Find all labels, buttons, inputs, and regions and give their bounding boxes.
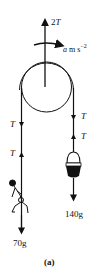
acceleration-label: a m s−2 [63,42,87,54]
tension-label-left-up: T [10,149,15,158]
tension-down-arrow-left [19,122,24,127]
support-force-label: 2T [51,18,61,27]
tension-up-arrow-right [71,134,76,139]
right-rope [71,88,76,198]
pulley-diagram [0,0,104,271]
weight-label-right: 140g [65,210,83,219]
tension-label-right-up: T [81,132,86,141]
tension-down-arrow-right [71,115,76,120]
acceleration-arrow [34,43,60,45]
figure-caption: (a) [44,258,55,267]
tension-label-right-down: T [81,112,86,121]
bucket [66,152,81,178]
pulley-wheel [20,62,74,112]
weight-label-left: 70g [13,239,27,248]
man-figure [10,180,29,213]
tension-up-arrow-left [19,152,24,157]
left-rope [19,88,24,232]
tension-label-left-down: T [10,120,15,129]
